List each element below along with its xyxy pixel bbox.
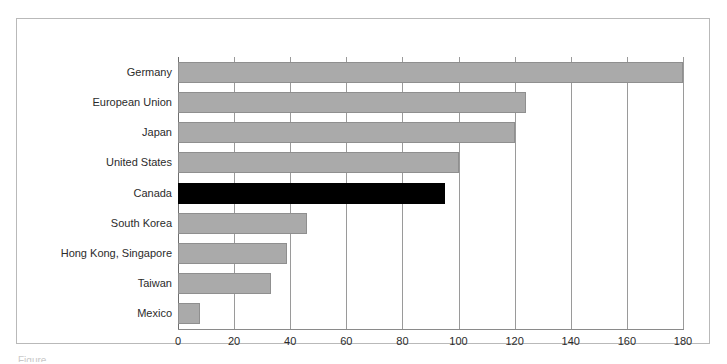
category-label: Japan (22, 122, 172, 143)
bar (178, 303, 200, 324)
x-tick-label: 60 (340, 335, 352, 347)
y-axis-category-labels: GermanyEuropean UnionJapanUnited StatesC… (22, 57, 172, 329)
bar (178, 273, 271, 294)
x-tick-label: 80 (396, 335, 408, 347)
bar (178, 213, 307, 234)
x-tick-label: 40 (284, 335, 296, 347)
category-label: Taiwan (22, 273, 172, 294)
x-tick-label: 20 (228, 335, 240, 347)
bar (178, 243, 287, 264)
gridline (683, 57, 684, 329)
x-tick-label: 120 (505, 335, 523, 347)
bar-row (178, 183, 683, 204)
chart-frame: GermanyEuropean UnionJapanUnited StatesC… (16, 18, 710, 344)
bar-row (178, 213, 683, 234)
x-axis-baseline (178, 329, 684, 330)
x-tick-label: 160 (618, 335, 636, 347)
bar (178, 92, 526, 113)
x-tick-label: 180 (674, 335, 692, 347)
bar (178, 122, 515, 143)
category-label: South Korea (22, 213, 172, 234)
bar-row (178, 152, 683, 173)
bar (178, 152, 459, 173)
bar-row (178, 92, 683, 113)
figure-container: GermanyEuropean UnionJapanUnited StatesC… (0, 0, 727, 364)
category-label: United States (22, 152, 172, 173)
bar-row (178, 243, 683, 264)
bar-row (178, 273, 683, 294)
bar (178, 62, 683, 83)
x-axis-tick-labels: 020406080100120140160180 (178, 335, 683, 351)
bar-row (178, 303, 683, 324)
plot-area (178, 57, 683, 329)
bar (178, 183, 445, 204)
category-label: Germany (22, 62, 172, 83)
category-label: Canada (22, 183, 172, 204)
x-tick-label: 0 (175, 335, 181, 347)
category-label: Hong Kong, Singapore (22, 243, 172, 264)
caption-partial: Figure (18, 355, 138, 362)
bar-row (178, 62, 683, 83)
x-tick-label: 140 (562, 335, 580, 347)
category-label: European Union (22, 92, 172, 113)
bar-row (178, 122, 683, 143)
category-label: Mexico (22, 303, 172, 324)
x-tick-label: 100 (449, 335, 467, 347)
